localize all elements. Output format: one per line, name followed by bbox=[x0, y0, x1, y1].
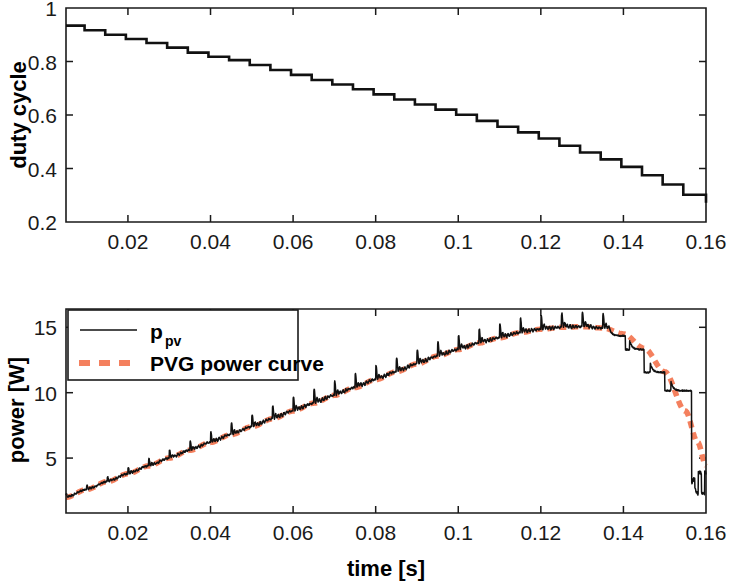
x-tick-label: 0.08 bbox=[355, 230, 396, 253]
figure-svg: 0.020.040.060.080.10.120.140.16 0.20.40.… bbox=[0, 0, 731, 582]
power-y-axis-title: power [W] bbox=[4, 357, 29, 463]
y-tick-label: 0.4 bbox=[28, 158, 58, 181]
duty-plot-background bbox=[66, 8, 706, 222]
x-tick-label: 0.1 bbox=[444, 230, 473, 253]
y-tick-label: 0.2 bbox=[28, 211, 57, 234]
x-tick-label: 0.16 bbox=[686, 230, 727, 253]
power-x-tick-labels: 0.020.040.060.080.10.120.140.16 bbox=[107, 521, 726, 544]
x-tick-label: 0.14 bbox=[603, 521, 644, 544]
legend-label-ppv-subscript: pv bbox=[165, 333, 182, 349]
x-tick-label: 0.1 bbox=[444, 521, 473, 544]
x-tick-label: 0.06 bbox=[273, 521, 314, 544]
duty-y-axis-title: duty cycle bbox=[6, 61, 31, 169]
figure-container: 0.020.040.060.080.10.120.140.16 0.20.40.… bbox=[0, 0, 731, 582]
y-tick-label: 1 bbox=[45, 0, 57, 20]
x-tick-label: 0.08 bbox=[355, 521, 396, 544]
y-tick-label: 15 bbox=[34, 316, 57, 339]
duty-y-tick-labels: 0.20.40.60.81 bbox=[28, 0, 58, 234]
y-tick-label: 0.8 bbox=[28, 51, 57, 74]
duty-x-tick-labels: 0.020.040.060.080.10.120.140.16 bbox=[107, 230, 726, 253]
y-tick-label: 5 bbox=[45, 447, 57, 470]
x-tick-label: 0.02 bbox=[107, 230, 148, 253]
x-tick-label: 0.16 bbox=[686, 521, 727, 544]
y-tick-label: 0.6 bbox=[28, 104, 57, 127]
legend: p pv PVG power curve bbox=[68, 310, 324, 380]
duty-cycle-panel: 0.020.040.060.080.10.120.140.16 0.20.40.… bbox=[6, 0, 726, 253]
x-tick-label: 0.12 bbox=[520, 230, 561, 253]
x-tick-label: 0.02 bbox=[107, 521, 148, 544]
power-y-tick-labels: 51015 bbox=[34, 316, 57, 470]
power-panel: 0.020.040.060.080.10.120.140.16 51015 po… bbox=[4, 309, 726, 581]
x-tick-label: 0.04 bbox=[190, 230, 231, 253]
x-tick-label: 0.04 bbox=[190, 521, 231, 544]
legend-label-ppv-main: p bbox=[150, 320, 163, 343]
x-tick-label: 0.12 bbox=[520, 521, 561, 544]
x-tick-label: 0.14 bbox=[603, 230, 644, 253]
power-x-axis-title: time [s] bbox=[347, 556, 425, 581]
y-tick-label: 10 bbox=[34, 382, 57, 405]
legend-label-pvg: PVG power curve bbox=[150, 352, 324, 375]
x-tick-label: 0.06 bbox=[273, 230, 314, 253]
